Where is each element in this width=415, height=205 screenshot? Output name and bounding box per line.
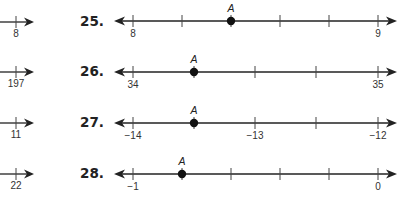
point-a-dot [227,17,235,25]
start-label: 8 [130,28,136,39]
point-a-dot [190,68,198,76]
middle-label: −13 [247,130,264,141]
point-label: A [178,155,185,167]
problem-27: 27. A −14 −13 −12 [0,101,415,151]
end-label: −12 [370,130,387,141]
point-label: A [190,104,197,116]
point-label: A [227,2,234,14]
start-label: −1 [127,181,138,192]
point-label: A [190,53,197,65]
point-a-dot [190,119,198,127]
end-label: 0 [375,181,381,192]
end-label: 9 [375,28,381,39]
number-line [0,0,415,50]
start-label: −14 [125,130,142,141]
point-a-dot [178,170,186,178]
problem-26: 26. A 34 35 [0,50,415,100]
end-label: 35 [372,79,383,90]
number-line [0,152,415,202]
problem-25: 25. A 8 9 [0,0,415,50]
number-line [0,101,415,151]
number-line [0,50,415,100]
problem-28: 28. A −1 0 [0,152,415,202]
start-label: 34 [127,79,138,90]
